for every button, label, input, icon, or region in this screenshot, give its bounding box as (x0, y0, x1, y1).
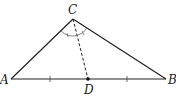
triangle-diagram: A B C D (0, 0, 176, 96)
label-b: B (167, 73, 176, 87)
label-d: D (83, 83, 94, 96)
angle-tick-1 (67, 33, 68, 37)
angle-arc-acd (61, 31, 77, 36)
bisector-cd (73, 19, 88, 79)
side-ac (11, 19, 73, 79)
label-c: C (68, 3, 77, 17)
label-a: A (0, 73, 9, 87)
point-d (86, 77, 90, 81)
